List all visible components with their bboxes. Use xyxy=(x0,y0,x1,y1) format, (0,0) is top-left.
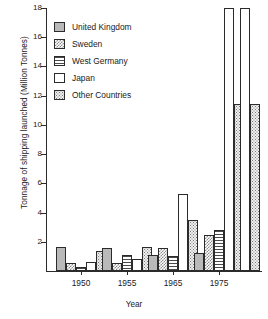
chart-figure: Tonnage of shipping launched (Million To… xyxy=(0,0,268,319)
bar xyxy=(204,235,214,271)
bar xyxy=(76,267,86,271)
bar xyxy=(112,263,122,271)
legend: United KingdomSwedenWest GermanyJapanOth… xyxy=(54,18,132,103)
bar xyxy=(214,230,224,271)
legend-label: Other Countries xyxy=(72,90,131,100)
bar xyxy=(194,253,204,271)
x-tick-label: 1975 xyxy=(210,278,229,288)
bar xyxy=(240,8,250,271)
x-axis-line xyxy=(46,271,262,272)
y-tick-label: 12 xyxy=(33,92,42,100)
legend-item-japan: Japan xyxy=(54,69,132,86)
bar xyxy=(158,248,168,271)
y-tick-label: 10 xyxy=(33,121,42,129)
y-axis-title: Tonnage of shipping launched (Million To… xyxy=(20,23,29,223)
legend-label: Sweden xyxy=(72,39,102,49)
y-tick-label: 16 xyxy=(33,33,42,41)
bar xyxy=(66,263,76,271)
bar xyxy=(86,262,96,271)
x-tick-label: 1950 xyxy=(72,278,91,288)
x-axis-title: Year xyxy=(0,300,268,309)
x-tick xyxy=(127,271,128,275)
y-tick-label: 2 xyxy=(38,238,42,246)
legend-swatch-icon xyxy=(54,56,65,66)
bar xyxy=(102,248,112,271)
bar xyxy=(148,255,158,271)
bar xyxy=(122,255,132,271)
bar xyxy=(132,259,142,271)
bar xyxy=(224,8,234,271)
y-tick-label: 6 xyxy=(38,179,42,187)
legend-swatch-icon xyxy=(54,73,65,83)
legend-label: United Kingdom xyxy=(72,22,132,32)
x-tick xyxy=(173,271,174,275)
bar xyxy=(178,194,188,271)
legend-item-other-countries: Other Countries xyxy=(54,86,132,103)
legend-swatch-icon xyxy=(54,90,65,100)
legend-item-united-kingdom: United Kingdom xyxy=(54,18,132,35)
legend-item-west-germany: West Germany xyxy=(54,52,132,69)
x-tick-label: 1955 xyxy=(118,278,137,288)
bar xyxy=(250,104,260,271)
legend-label: Japan xyxy=(72,73,95,83)
bar xyxy=(168,256,178,271)
legend-label: West Germany xyxy=(72,56,128,66)
bar xyxy=(56,247,66,271)
legend-swatch-icon xyxy=(54,39,65,49)
y-tick-label: 18 xyxy=(33,4,42,12)
y-tick-label: 14 xyxy=(33,62,42,70)
y-tick-label: 8 xyxy=(38,150,42,158)
y-tick-label: 4 xyxy=(38,209,42,217)
x-tick xyxy=(81,271,82,275)
legend-swatch-icon xyxy=(54,22,65,32)
y-axis-line xyxy=(46,8,47,272)
x-tick-label: 1965 xyxy=(164,278,183,288)
x-tick xyxy=(219,271,220,275)
legend-item-sweden: Sweden xyxy=(54,35,132,52)
